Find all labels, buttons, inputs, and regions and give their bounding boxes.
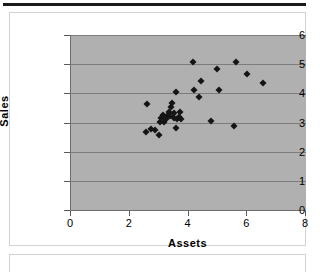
data-point [214,65,221,72]
y-axis-tick [64,152,70,153]
data-point [177,108,184,115]
y-axis-tick-label: 3 [259,117,305,128]
y-axis-tick-label: 4 [259,88,305,99]
data-point [216,86,223,93]
y-axis-title: Sales [0,95,10,126]
x-axis-tick-label: 0 [55,218,85,229]
y-axis-tick [64,93,70,94]
x-axis-tick [70,211,71,216]
data-point [196,94,203,101]
y-axis-tick-label: 0 [259,205,305,216]
data-point [172,124,179,131]
x-axis-tick-label: 2 [114,218,144,229]
data-point [230,122,237,129]
x-axis-title: Assets [70,237,305,249]
empty-content-box [9,254,306,272]
x-axis-tick [246,211,247,216]
data-point [155,131,162,138]
x-axis-tick [129,211,130,216]
top-horizontal-rule [3,3,306,6]
data-point [143,101,150,108]
data-point [173,88,180,95]
x-axis-tick [305,211,306,216]
y-axis-tick-label: 5 [259,59,305,70]
x-axis-tick-label: 4 [173,218,203,229]
x-axis-tick [188,211,189,216]
y-axis-tick [64,181,70,182]
y-axis-tick-label: 6 [259,30,305,41]
y-axis-tick-label: 1 [259,175,305,186]
data-point [260,79,267,86]
data-point [243,70,250,77]
y-axis-tick [64,64,70,65]
data-point [169,99,176,106]
chart-container: Sales Assets 012345602468 [9,12,306,246]
data-point [197,77,204,84]
y-axis-tick [64,35,70,36]
x-axis-tick-label: 8 [290,218,320,229]
data-point [208,118,215,125]
data-point [177,115,184,122]
x-axis-tick-label: 6 [231,218,261,229]
y-axis-tick-label: 2 [259,146,305,157]
y-axis-tick [64,123,70,124]
